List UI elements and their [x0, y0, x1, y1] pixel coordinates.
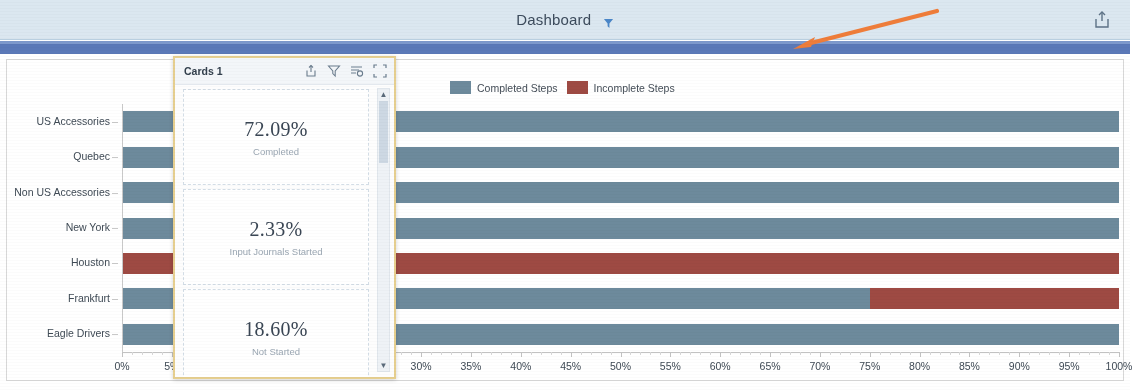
x-axis-minor-tick	[551, 352, 552, 355]
x-axis-minor-tick	[900, 352, 901, 355]
kpi-card-value: 2.33%	[249, 218, 302, 241]
x-axis-tick	[1069, 352, 1070, 357]
cards-scrollbar[interactable]: ▲ ▼	[377, 88, 390, 372]
x-axis-minor-tick	[650, 352, 651, 355]
x-axis-minor-tick	[760, 352, 761, 355]
x-axis-label: 60%	[710, 360, 731, 372]
x-axis-tick	[770, 352, 771, 357]
x-axis-minor-tick	[481, 352, 482, 355]
x-axis-label: 100%	[1106, 360, 1132, 372]
x-axis-minor-tick	[1109, 352, 1110, 355]
x-axis-minor-tick	[780, 352, 781, 355]
x-axis-minor-tick	[930, 352, 931, 355]
x-axis-minor-tick	[1039, 352, 1040, 355]
x-axis-minor-tick	[1049, 352, 1050, 355]
x-axis-minor-tick	[710, 352, 711, 355]
x-axis-minor-tick	[491, 352, 492, 355]
filter-icon[interactable]	[603, 15, 614, 26]
y-axis-tick	[112, 228, 118, 229]
kpi-card[interactable]: 2.33%Input Journals Started	[183, 189, 369, 285]
cards-panel[interactable]: Cards 1	[173, 56, 396, 379]
y-axis-label: New York	[66, 221, 110, 233]
x-axis-minor-tick	[561, 352, 562, 355]
x-axis-minor-tick	[800, 352, 801, 355]
filter-icon[interactable]	[327, 64, 341, 78]
accent-ribbon-highlight	[0, 41, 1130, 44]
x-axis-minor-tick	[401, 352, 402, 355]
chart-legend: Completed Steps Incomplete Steps	[450, 79, 675, 96]
x-axis-tick	[621, 352, 622, 357]
x-axis-minor-tick	[840, 352, 841, 355]
y-axis-label: Houston	[71, 256, 110, 268]
y-axis-label: Non US Accessories	[14, 186, 110, 198]
x-axis-tick	[1019, 352, 1020, 357]
x-axis-label: 65%	[760, 360, 781, 372]
header-title-wrap: Dashboard	[0, 0, 1130, 40]
scroll-up-icon[interactable]: ▲	[378, 89, 389, 100]
x-axis-label: 55%	[660, 360, 681, 372]
x-axis-minor-tick	[431, 352, 432, 355]
x-axis-minor-tick	[999, 352, 1000, 355]
x-axis-tick	[571, 352, 572, 357]
x-axis-label: 95%	[1059, 360, 1080, 372]
y-axis-tick	[112, 193, 118, 194]
x-axis-minor-tick	[810, 352, 811, 355]
x-axis-minor-tick	[1089, 352, 1090, 355]
x-axis-minor-tick	[680, 352, 681, 355]
x-axis-tick	[670, 352, 671, 357]
y-axis-label: Quebec	[73, 150, 110, 162]
legend-item[interactable]: Completed Steps	[450, 81, 558, 94]
cards-panel-title: Cards 1	[184, 65, 223, 77]
kpi-card-value: 18.60%	[244, 318, 307, 341]
kpi-card[interactable]: 18.60%Not Started	[183, 289, 369, 377]
sort-icon[interactable]	[350, 64, 364, 78]
x-axis-minor-tick	[890, 352, 891, 355]
y-axis-label: Eagle Drivers	[47, 327, 110, 339]
x-axis-minor-tick	[1009, 352, 1010, 355]
legend-swatch-completed	[450, 81, 471, 94]
x-axis-label: 90%	[1009, 360, 1030, 372]
kpi-card-label: Input Journals Started	[230, 246, 323, 257]
x-axis-label: 0%	[114, 360, 129, 372]
x-axis-label: 85%	[959, 360, 980, 372]
x-axis-tick	[122, 352, 123, 357]
x-axis-minor-tick	[959, 352, 960, 355]
cards-panel-header: Cards 1	[175, 58, 394, 85]
x-axis-minor-tick	[989, 352, 990, 355]
kpi-card-label: Completed	[253, 146, 299, 157]
x-axis-minor-tick	[630, 352, 631, 355]
x-axis-label: 35%	[460, 360, 481, 372]
x-axis-minor-tick	[531, 352, 532, 355]
y-axis-tick	[112, 122, 118, 123]
legend-item[interactable]: Incomplete Steps	[567, 81, 675, 94]
bar-segment-incomplete[interactable]	[870, 288, 1119, 309]
x-axis-minor-tick	[1029, 352, 1030, 355]
x-axis-tick	[720, 352, 721, 357]
page-title: Dashboard	[516, 11, 591, 28]
x-axis-label: 70%	[809, 360, 830, 372]
y-axis-label: Frankfurt	[68, 292, 110, 304]
x-axis-minor-tick	[750, 352, 751, 355]
x-axis-minor-tick	[850, 352, 851, 355]
scrollbar-thumb[interactable]	[379, 101, 388, 163]
x-axis-minor-tick	[790, 352, 791, 355]
kpi-card[interactable]: 72.09%Completed	[183, 89, 369, 185]
x-axis-minor-tick	[740, 352, 741, 355]
y-axis-tick	[112, 263, 118, 264]
scroll-down-icon[interactable]: ▼	[378, 360, 389, 371]
x-axis-label: 40%	[510, 360, 531, 372]
fullscreen-icon[interactable]	[373, 64, 387, 78]
x-axis-label: 45%	[560, 360, 581, 372]
kpi-card-value: 72.09%	[244, 118, 307, 141]
x-axis-tick	[820, 352, 821, 357]
x-axis-minor-tick	[1059, 352, 1060, 355]
export-icon[interactable]	[1092, 10, 1112, 30]
cards-panel-toolbar	[304, 64, 387, 78]
x-axis-minor-tick	[142, 352, 143, 355]
cards-list: 72.09%Completed2.33%Input Journals Start…	[175, 85, 394, 377]
x-axis-minor-tick	[541, 352, 542, 355]
x-axis-minor-tick	[152, 352, 153, 355]
x-axis-tick	[920, 352, 921, 357]
x-axis-minor-tick	[441, 352, 442, 355]
export-icon[interactable]	[304, 64, 318, 78]
